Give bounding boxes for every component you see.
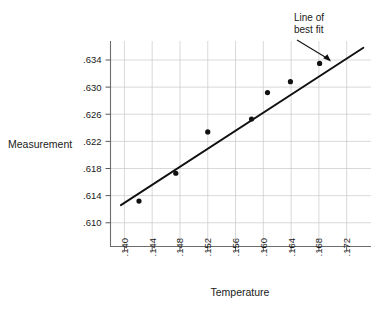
y-tick-label: .630: [83, 82, 102, 93]
data-point: [173, 171, 178, 176]
x-tick-label: .168: [313, 238, 324, 257]
line-of-best-fit: [121, 48, 363, 205]
y-tick-label: .622: [83, 136, 102, 147]
chart-canvas: .634.630.626.622.618.614.610 .140.144.14…: [0, 0, 392, 309]
data-point: [205, 129, 210, 134]
scatter-chart: .634.630.626.622.618.614.610 .140.144.14…: [0, 0, 392, 309]
x-tick-label: .160: [258, 238, 269, 257]
data-point: [288, 79, 293, 84]
x-tick-label: .172: [341, 238, 352, 257]
y-tick-label: .626: [83, 109, 102, 120]
y-tick-label: .618: [83, 163, 102, 174]
x-tick-label: .148: [174, 238, 185, 257]
x-tick-label: .156: [230, 238, 241, 257]
data-point: [249, 116, 254, 121]
vertical-gridlines: [124, 41, 346, 247]
y-tick-label: .610: [83, 217, 102, 228]
y-axis-title: Measurement: [8, 138, 72, 150]
annotation-line-1: Line of: [294, 12, 324, 23]
annotation-line-2: best fit: [294, 24, 324, 35]
x-tick-label: .144: [147, 238, 158, 257]
horizontal-gridlines: [111, 60, 372, 223]
annotation-arrow-head: [323, 54, 331, 61]
x-axis-tick-labels: .140.144.148.152.156.160.164.168.172: [119, 238, 352, 257]
data-point: [265, 90, 270, 95]
x-axis-title: Temperature: [211, 286, 270, 298]
data-point: [136, 198, 141, 203]
y-axis-ticks: [106, 60, 111, 223]
data-point: [317, 61, 322, 66]
data-points-group: [136, 61, 322, 204]
y-axis-tick-labels: .634.630.626.622.618.614.610: [83, 54, 102, 228]
y-tick-label: .634: [83, 54, 102, 65]
x-tick-label: .152: [202, 238, 213, 257]
x-tick-label: .140: [119, 238, 130, 257]
x-tick-label: .164: [286, 238, 297, 257]
y-tick-label: .614: [83, 190, 102, 201]
